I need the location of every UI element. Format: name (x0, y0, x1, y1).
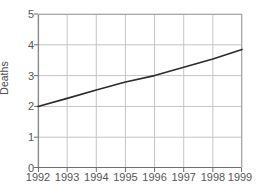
plot-area (38, 14, 242, 168)
x-tick-label: 1999 (228, 171, 252, 183)
series-line-deaths (38, 49, 242, 106)
y-tick-label: 2 (6, 101, 34, 112)
y-tick-label: 3 (6, 71, 34, 82)
y-axis-label: Deaths (0, 43, 10, 113)
line-chart: 5 4 3 2 1 0 Deaths (0, 0, 257, 186)
x-tick-label: 1992 (26, 171, 50, 183)
x-tick-label: 1995 (113, 171, 137, 183)
x-tick-label: 1993 (55, 171, 79, 183)
x-tick-label: 1994 (84, 171, 108, 183)
x-axis-tick-labels: 1992 1993 1994 1995 1996 1997 1998 1999 (0, 171, 257, 185)
x-tick-label: 1998 (201, 171, 225, 183)
x-tick-label: 1997 (171, 171, 195, 183)
y-tick-label: 4 (6, 40, 34, 51)
chart-title (0, 0, 257, 2)
y-tick-label: 5 (6, 9, 34, 20)
data-series-deaths (38, 14, 242, 168)
y-tick-label: 1 (6, 132, 34, 143)
x-tick-label: 1996 (142, 171, 166, 183)
